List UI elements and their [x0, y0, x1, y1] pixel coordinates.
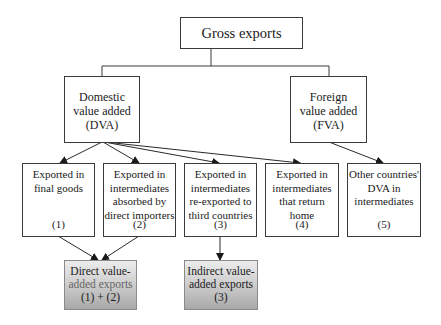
- c2-line-3: absorbed by: [104, 195, 175, 209]
- direct-line-3: (1) + (2): [65, 291, 136, 304]
- c4-number: (4): [266, 218, 338, 232]
- final-goods-box: Exported in final goods (1): [22, 163, 95, 237]
- dva-line-3: (DVA): [65, 118, 139, 132]
- c2-number: (2): [104, 218, 175, 232]
- fva-line-2: value added: [291, 104, 366, 118]
- c3-line-3: re-exported to: [185, 195, 256, 209]
- c1-line-2: final goods: [23, 182, 94, 196]
- dva-line-1: Domestic: [65, 90, 139, 104]
- c1-line-1: Exported in: [23, 168, 94, 182]
- direct-line-2: added exports: [65, 278, 136, 291]
- direct-value-added-box: Direct value- added exports (1) + (2): [64, 260, 137, 310]
- gross-exports-label: Gross exports: [201, 25, 281, 41]
- return-home-box: Exported in intermediates that return ho…: [265, 163, 339, 237]
- arrow-c2-to-direct: [102, 236, 139, 260]
- dva-box: Domestic value added (DVA): [64, 76, 140, 143]
- c2-line-2: intermediates: [104, 182, 175, 196]
- absorbed-by-importers-box: Exported in intermediates absorbed by di…: [103, 163, 176, 237]
- dva-line-2: value added: [65, 104, 139, 118]
- c1-number: (1): [23, 218, 94, 232]
- indirect-line-1: Indirect value-: [185, 265, 257, 278]
- c4-line-2: intermediates: [266, 182, 338, 196]
- c5-line-2: DVA in: [348, 182, 420, 196]
- arrow-dva-to-c1: [60, 142, 102, 163]
- arrow-fva-to-c5: [329, 142, 383, 163]
- fva-box: Foreign value added (FVA): [290, 76, 367, 143]
- root-connector: [102, 48, 329, 76]
- c5-line-1: Other countries': [348, 168, 420, 182]
- arrow-c1-to-direct: [58, 236, 98, 260]
- c4-line-1: Exported in: [266, 168, 338, 182]
- fva-line-3: (FVA): [291, 118, 366, 132]
- indirect-line-3: (3): [185, 291, 257, 304]
- c4-line-3: that return: [266, 195, 338, 209]
- indirect-line-2: added exports: [185, 278, 257, 291]
- c3-line-1: Exported in: [185, 168, 256, 182]
- indirect-value-added-box: Indirect value- added exports (3): [184, 260, 258, 310]
- re-exported-box: Exported in intermediates re-exported to…: [184, 163, 257, 237]
- c3-number: (3): [185, 218, 256, 232]
- fva-line-1: Foreign: [291, 90, 366, 104]
- c5-number: (5): [348, 218, 420, 232]
- c2-line-1: Exported in: [104, 168, 175, 182]
- direct-line-1: Direct value-: [65, 265, 136, 278]
- other-countries-dva-box: Other countries' DVA in intermediates (5…: [347, 163, 421, 237]
- gross-exports-box: Gross exports: [180, 17, 303, 49]
- c5-line-3: intermediates: [348, 195, 420, 209]
- c3-line-2: intermediates: [185, 182, 256, 196]
